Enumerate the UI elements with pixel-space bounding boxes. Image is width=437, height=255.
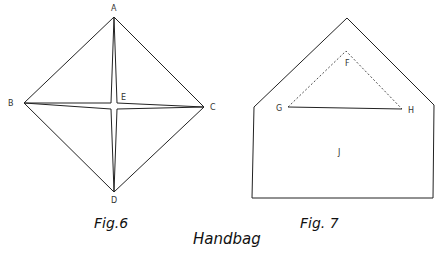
label-j: J (337, 148, 340, 157)
label-g: G (276, 104, 282, 113)
star-cross (24, 17, 204, 192)
figure-6 (24, 17, 204, 192)
handbag-diagram: A B C D E Fig.6 F G H J Fig. 7 Handbag (0, 0, 437, 255)
label-b: B (8, 99, 14, 108)
label-d: D (111, 196, 117, 205)
caption-fig7: Fig. 7 (300, 215, 339, 231)
label-c: C (210, 103, 216, 112)
label-a: A (111, 4, 117, 13)
label-h: H (408, 106, 414, 115)
label-e: E (121, 93, 126, 102)
fold-line-gh (288, 107, 402, 109)
caption-fig6: Fig.6 (94, 215, 128, 231)
diagram-title: Handbag (193, 230, 261, 248)
label-f: F (345, 59, 350, 68)
